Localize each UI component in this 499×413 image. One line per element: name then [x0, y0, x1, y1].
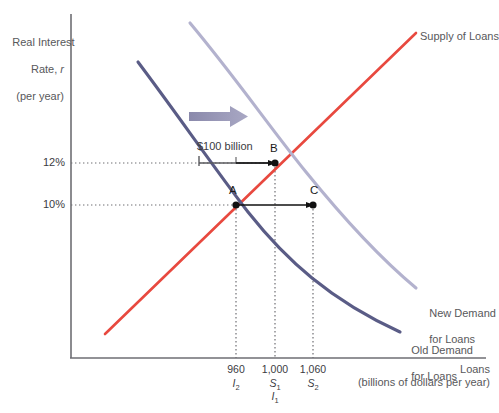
y-tick-label-10-percent: 10% — [10, 198, 65, 211]
y-axis-title-line2: Rate, r — [31, 63, 64, 75]
arrow-a-to-b — [236, 160, 276, 166]
new-demand-for-loans-curve — [190, 23, 416, 288]
series-label-supply-of-loans: Supply of Loans — [420, 30, 499, 43]
series-label-old-demand-line1: Old Demand — [411, 344, 473, 356]
economics-loanable-funds-figure: Real Interest Rate, r (per year) 12% 10%… — [0, 0, 499, 413]
shift-arrow-shape — [189, 106, 248, 127]
point-marker-c — [309, 201, 316, 208]
annotation-hundred-billion: $100 billion — [197, 140, 253, 153]
point-label-c: C — [310, 184, 318, 196]
y-tick-label-12-percent: 12% — [10, 156, 65, 169]
y-axis-title-line1: Real Interest — [12, 36, 74, 48]
x-symbol-label-i1: I1 — [245, 390, 305, 405]
vertical-guides — [236, 163, 313, 358]
point-marker-a — [232, 201, 239, 208]
y-axis-title-line3: (per year) — [16, 90, 64, 102]
point-marker-b — [271, 159, 278, 166]
series-label-old-demand: Old Demand for Loans — [399, 331, 473, 396]
point-label-a: A — [229, 184, 237, 196]
demand-shift-arrow — [189, 106, 248, 127]
point-label-b: B — [270, 142, 278, 154]
y-axis-title: Real Interest Rate, r (per year) — [0, 22, 64, 117]
series-label-old-demand-line2: for Loans — [411, 370, 457, 382]
old-demand-for-loans-curve — [138, 62, 400, 332]
series-label-new-demand-line1: New Demand — [429, 307, 496, 319]
